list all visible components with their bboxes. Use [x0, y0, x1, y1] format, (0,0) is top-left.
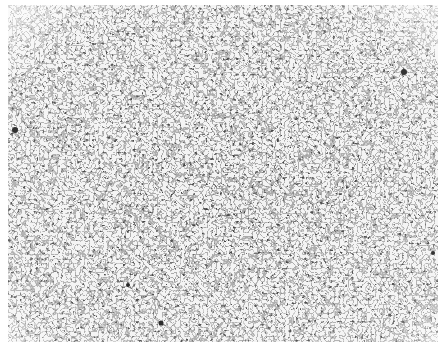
- grain-texture: [8, 5, 438, 342]
- micrograph-image: [8, 5, 438, 342]
